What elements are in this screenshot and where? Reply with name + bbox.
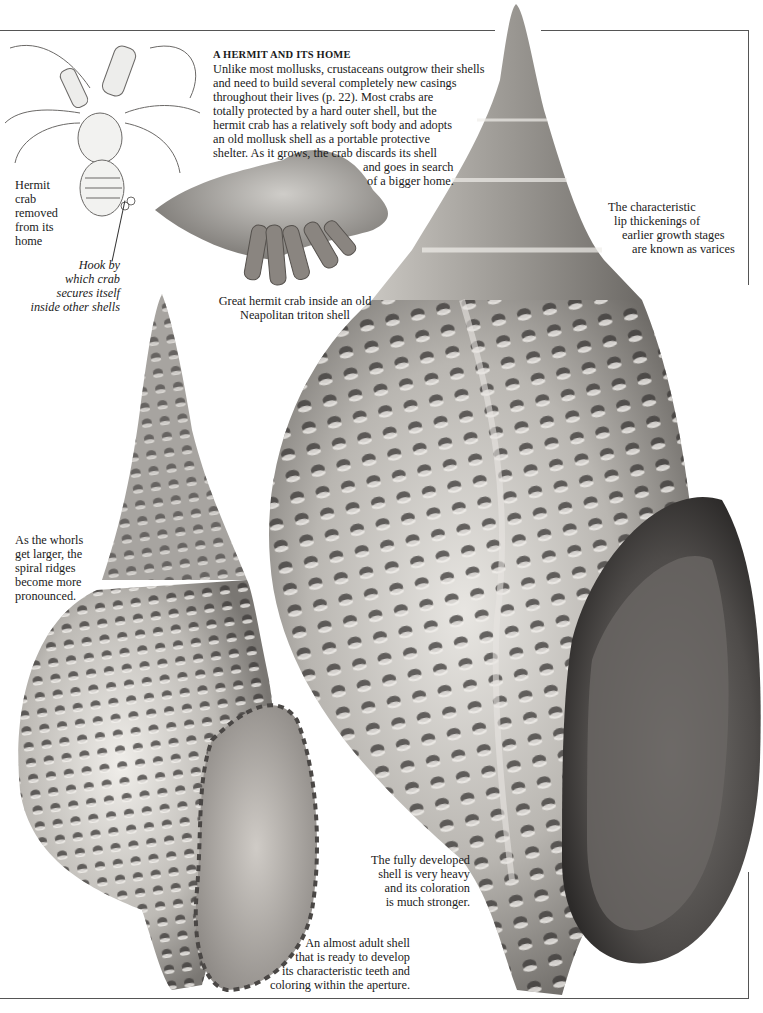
- caption-great-hermit-crab: Great hermit crab inside an old Neapolit…: [195, 294, 395, 322]
- caption-whorls: As the whorls get larger, the spiral rid…: [15, 533, 83, 603]
- intro-line: and need to build several completely new…: [213, 76, 543, 90]
- intro-line: of a bigger home.: [213, 174, 543, 188]
- caption-fully-developed: The fully developed shell is very heavy …: [340, 853, 470, 909]
- caption-varices: The characteristic lip thickenings of ea…: [608, 200, 758, 256]
- intro-line: totally protected by a hard outer shell,…: [213, 104, 543, 118]
- caption-hook: Hook by which crab secures itself inside…: [20, 258, 120, 314]
- intro-line: hermit crab has a relatively soft body a…: [213, 118, 543, 132]
- intro-line: Unlike most mollusks, crustaceans outgro…: [213, 62, 543, 76]
- small-triton-shell-image: [12, 290, 332, 1000]
- intro-line: throughout their lives (p. 22). Most cra…: [213, 90, 543, 104]
- intro-line: shelter. As it grows, the crab discards …: [213, 146, 543, 160]
- caption-almost-adult: An almost adult shell that is ready to d…: [260, 936, 410, 992]
- intro-text-block: A HERMIT AND ITS HOME Unlike most mollus…: [213, 48, 543, 188]
- section-title: A HERMIT AND ITS HOME: [213, 48, 543, 62]
- caption-hermit-removed: Hermit crab removed from its home: [15, 178, 58, 248]
- intro-line: an old mollusk shell as a portable prote…: [213, 132, 543, 146]
- intro-line: and goes in search: [213, 160, 543, 174]
